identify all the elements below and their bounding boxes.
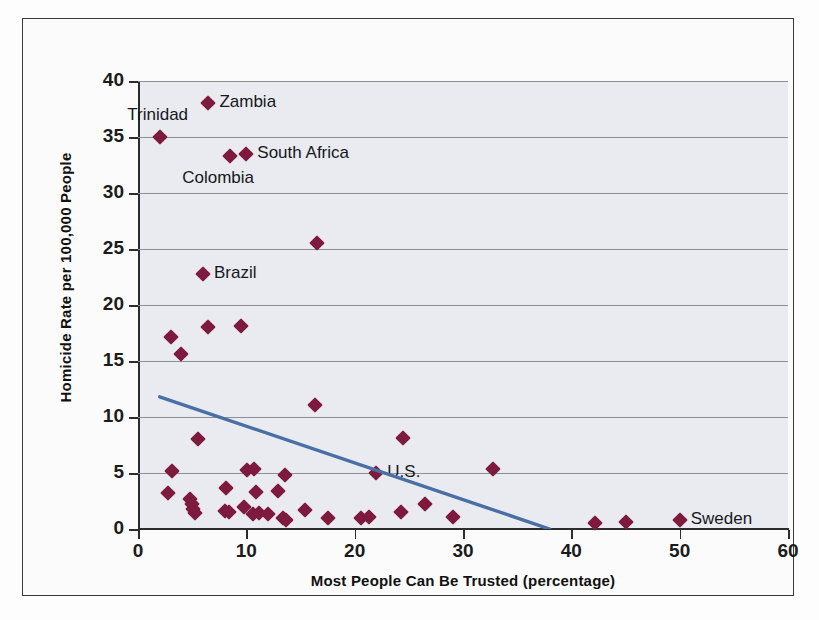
y-tick-mark (129, 193, 138, 195)
point-label-colombia: Colombia (182, 168, 254, 188)
point-label-u-s: U.S. (387, 462, 420, 482)
x-tick-mark (138, 530, 140, 539)
x-tick-label: 10 (216, 540, 276, 562)
y-tick-label: 15 (84, 349, 124, 371)
gridline (138, 305, 788, 306)
gridline (138, 81, 788, 82)
y-tick-mark (129, 81, 138, 83)
y-tick-label: 20 (84, 293, 124, 315)
y-tick-label: 10 (84, 405, 124, 427)
y-tick-mark (129, 417, 138, 419)
x-tick-mark (571, 530, 573, 539)
y-tick-label: 0 (84, 517, 124, 539)
x-tick-label: 60 (758, 540, 818, 562)
y-tick-mark (129, 137, 138, 139)
gridline (138, 417, 788, 418)
y-tick-label: 5 (84, 461, 124, 483)
x-tick-mark (788, 530, 790, 539)
y-tick-label: 25 (84, 237, 124, 259)
point-label-brazil: Brazil (214, 263, 257, 283)
y-tick-mark (129, 249, 138, 251)
gridline (138, 249, 788, 250)
x-tick-mark (463, 530, 465, 539)
x-tick-mark (355, 530, 357, 539)
gridline (138, 473, 788, 474)
x-tick-label: 0 (108, 540, 168, 562)
point-label-south-africa: South Africa (257, 143, 349, 163)
y-tick-label: 30 (84, 181, 124, 203)
x-tick-mark (680, 530, 682, 539)
y-axis-label: Homicide Rate per 100,000 People (57, 108, 74, 448)
point-label-sweden: Sweden (691, 509, 752, 529)
y-tick-mark (129, 529, 138, 531)
chart-figure: 0510152025303540 0102030405060 TrinidadZ… (0, 0, 819, 620)
x-tick-label: 40 (541, 540, 601, 562)
gridline (138, 193, 788, 194)
point-label-trinidad: Trinidad (127, 105, 188, 125)
x-tick-label: 20 (325, 540, 385, 562)
x-tick-label: 50 (650, 540, 710, 562)
y-tick-label: 40 (84, 69, 124, 91)
chart-frame: 0510152025303540 0102030405060 TrinidadZ… (22, 18, 794, 596)
gridline (138, 137, 788, 138)
point-label-zambia: Zambia (219, 92, 276, 112)
x-axis-label: Most People Can Be Trusted (percentage) (138, 572, 788, 589)
x-tick-mark (246, 530, 248, 539)
y-tick-label: 35 (84, 125, 124, 147)
y-tick-mark (129, 473, 138, 475)
x-tick-label: 30 (433, 540, 493, 562)
gridline (138, 361, 788, 362)
y-tick-mark (129, 361, 138, 363)
y-tick-mark (129, 305, 138, 307)
